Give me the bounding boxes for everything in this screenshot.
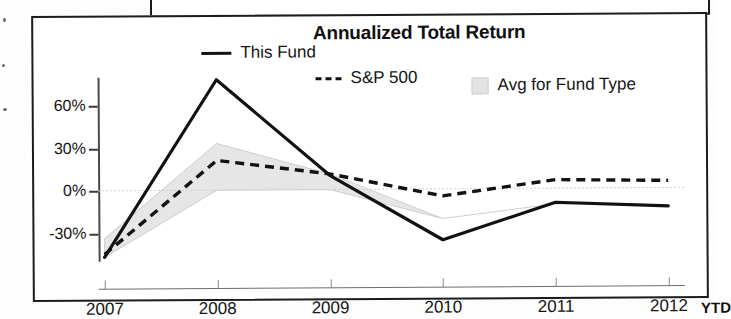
x-tick [443,279,444,288]
y-axis-label: 30% [16,139,98,158]
x-axis-label: 2011 [538,297,575,317]
x-axis-label: 2009 [312,298,350,318]
ytd-note: YTD [701,299,731,316]
legend-label-this-fund: This Fund [240,42,316,62]
legend-item-this-fund: This Fund [201,42,316,63]
x-tick [218,280,219,289]
x-tick [105,281,106,290]
x-tick [669,277,670,286]
plot-area: 60%30%0%-30% 200720082009201020112012 YT… [98,86,685,262]
scan-artifact-speck [3,108,7,111]
x-axis [99,285,685,290]
scan-artifact-speck [2,64,5,67]
avg-fund-type-band [104,141,669,258]
chart-title: Annualized Total Return [269,21,569,45]
x-axis-label: 2007 [86,300,124,319]
x-tick [556,278,557,287]
y-axis-label: -30% [16,224,98,243]
y-axis-label: 60% [16,97,98,116]
x-axis-label: 2012 [650,296,688,316]
solid-line-icon [201,51,231,54]
x-tick [330,279,331,288]
chart-frame: Annualized Total Return This Fund S&P 50… [31,12,709,302]
y-axis-label: 0% [16,182,98,201]
scan-artifact-speck [3,18,6,22]
x-axis-label: 2010 [424,297,462,317]
series-canvas [98,74,685,262]
x-axis-label: 2008 [199,299,237,319]
series-svg [98,74,685,262]
